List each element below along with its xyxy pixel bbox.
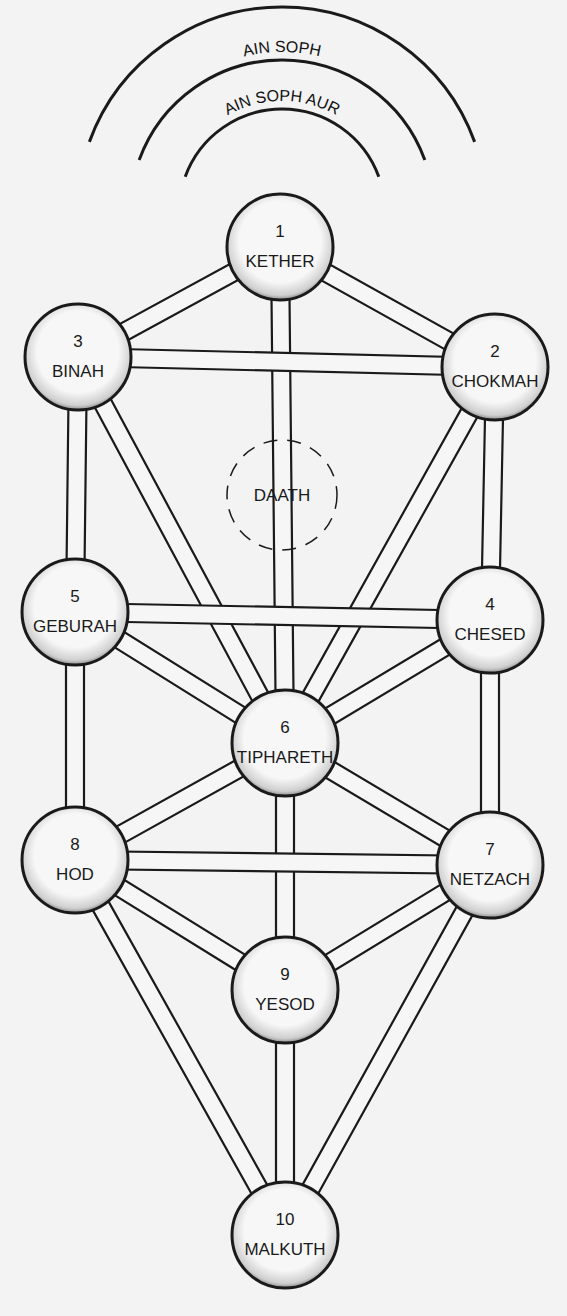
sephirah-circle [22,807,128,913]
path-hod-netzach [75,851,490,874]
sephirah-circle [232,937,338,1043]
veil-label-ain: AIN [268,0,296,2]
sephirah-name: CHOKMAH [452,372,539,391]
sephirah-circle [437,812,543,918]
sephirah-kether: 1KETHER [227,194,333,300]
sephirah-name: TIPHARETH [237,748,333,767]
veils-of-negative-existence: AINAIN SOPHAIN SOPH AUR [69,0,495,212]
tree-of-life-diagram: AINAIN SOPHAIN SOPH AUR DAATH 1KETHER2CH… [0,0,567,1316]
sephirah-circle [22,559,128,665]
sephirah-name: GEBURAH [33,617,117,636]
sephirah-name: MALKUTH [244,1240,325,1259]
sephirah-name: HOD [56,865,94,884]
sephirah-number: 3 [73,332,82,351]
veil-label-ain-soph-aur: AIN SOPH AUR [221,87,343,118]
path-geburah-chesed [75,603,490,629]
veil-arc-ain [89,7,474,142]
sephirah-number: 6 [280,718,289,737]
sephirah-binah: 3BINAH [25,304,131,410]
sephirah-name: BINAH [52,362,104,381]
sephirah-name: CHESED [455,625,526,644]
sephirah-circle [232,1182,338,1288]
sephirah-circle [437,567,543,673]
sephirah-circle [227,194,333,300]
sephirah-name: KETHER [246,252,315,271]
sephirah-number: 4 [485,595,494,614]
sephirah-tiphareth: 6TIPHARETH [232,690,338,796]
sephirah-netzach: 7NETZACH [437,812,543,918]
sephirah-name: NETZACH [450,870,530,889]
sephirah-number: 9 [280,965,289,984]
daath-label: DAATH [254,486,310,505]
sephirah-circle [232,690,338,796]
sephirah-number: 1 [275,222,284,241]
veil-arc-ain-soph-aur [185,109,379,177]
sephirah-malkuth: 10MALKUTH [232,1182,338,1288]
sephirah-number: 5 [70,587,79,606]
veil-label-ain-soph: AIN SOPH [241,38,322,59]
path-binah-chokmah [78,348,495,376]
sephirah-number: 8 [70,835,79,854]
sephirah-chokmah: 2CHOKMAH [442,314,548,420]
sephirah-hod: 8HOD [22,807,128,913]
sephirah-geburah: 5GEBURAH [22,559,128,665]
sephirah-yesod: 9YESOD [232,937,338,1043]
sephirah-circle [25,304,131,410]
sephirah-name: YESOD [255,995,315,1014]
sephirah-number: 2 [490,342,499,361]
sephirah-number: 10 [276,1210,295,1229]
sephirah-circle [442,314,548,420]
sephirah-chesed: 4CHESED [437,567,543,673]
sephirah-number: 7 [485,840,494,859]
